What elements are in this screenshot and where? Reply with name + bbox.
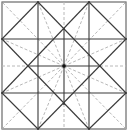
crease-pattern-diagram [0, 0, 131, 131]
vertex-dot [1, 92, 3, 94]
vertex-dot [63, 103, 65, 105]
vertex-dot [99, 65, 101, 67]
center-point [62, 64, 66, 68]
vertex-dot [1, 38, 3, 40]
vertex-dot [27, 65, 29, 67]
vertex-dot [63, 28, 65, 30]
vertex-dot [125, 92, 127, 94]
vertex-dot [125, 38, 127, 40]
vertex-dot [37, 1, 39, 3]
vertex-dot [88, 128, 90, 130]
vertex-dot [88, 1, 90, 3]
vertex-dot [37, 128, 39, 130]
